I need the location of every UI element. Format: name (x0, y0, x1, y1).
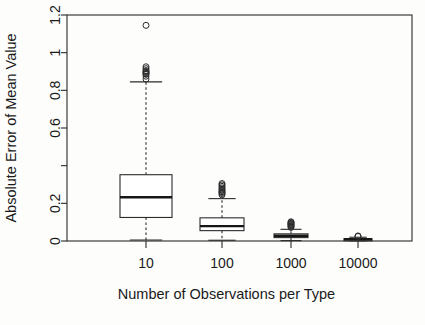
x-axis-title: Number of Observations per Type (118, 286, 335, 302)
y-axis-tick-label: 0.6 (47, 118, 63, 138)
y-axis-tick-label: 0.2 (47, 193, 63, 213)
y-axis-tick-label: 1 (47, 49, 63, 57)
boxplot-group (120, 22, 172, 240)
y-axis-title: Absolute Error of Mean Value (3, 33, 19, 222)
x-axis-tick-label: 1000 (275, 255, 306, 271)
boxplot-group (344, 233, 372, 241)
y-axis-tick-label: 1.2 (47, 5, 63, 25)
outlier-point (143, 22, 149, 28)
box (120, 175, 172, 218)
boxplot-group (274, 219, 308, 241)
box (200, 218, 244, 231)
x-axis-tick-label: 10 (138, 255, 154, 271)
boxplot-figure: 00.20.60.811.2Absolute Error of Mean Val… (0, 0, 425, 325)
boxplot-group (200, 181, 244, 241)
x-axis-tick-label: 100 (210, 255, 234, 271)
chart-page: 00.20.60.811.2Absolute Error of Mean Val… (0, 0, 425, 325)
y-axis-tick-label: 0.8 (47, 80, 63, 100)
x-axis-tick-label: 10000 (339, 255, 378, 271)
y-axis-tick-label: 0 (47, 237, 63, 245)
plot-frame (67, 15, 412, 241)
